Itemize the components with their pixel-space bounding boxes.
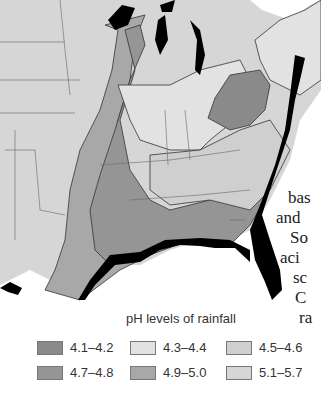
legend-item: 4.3–4.4: [130, 340, 206, 355]
side-text-3: So: [290, 228, 308, 248]
legend-title: pH levels of rainfall: [126, 311, 236, 326]
legend-label: 4.1–4.2: [70, 340, 113, 355]
side-text-4: aci: [280, 248, 300, 268]
legend-swatch: [37, 341, 63, 355]
legend-swatch: [226, 366, 252, 380]
legend-label: 4.3–4.4: [163, 340, 206, 355]
texas-coast: [0, 282, 22, 295]
legend-label: 4.5–4.6: [259, 340, 302, 355]
legend-item: 5.1–5.7: [226, 365, 302, 380]
legend-item: 4.7–4.8: [37, 365, 113, 380]
side-text-5: sc: [293, 268, 307, 288]
side-text-7: ra: [299, 308, 312, 328]
legend-swatch: [226, 341, 252, 355]
side-text-1: bas: [288, 188, 311, 208]
rainfall-ph-map: [0, 0, 321, 330]
side-text-2: and: [276, 208, 301, 228]
legend-label: 5.1–5.7: [259, 365, 302, 380]
side-text-6: C: [295, 288, 306, 308]
legend-item: 4.1–4.2: [37, 340, 113, 355]
legend-item: 4.9–5.0: [130, 365, 206, 380]
legend-item: 4.5–4.6: [226, 340, 302, 355]
legend-label: 4.7–4.8: [70, 365, 113, 380]
legend-swatch: [130, 366, 156, 380]
legend-label: 4.9–5.0: [163, 365, 206, 380]
legend-swatch: [130, 341, 156, 355]
legend-swatch: [37, 366, 63, 380]
